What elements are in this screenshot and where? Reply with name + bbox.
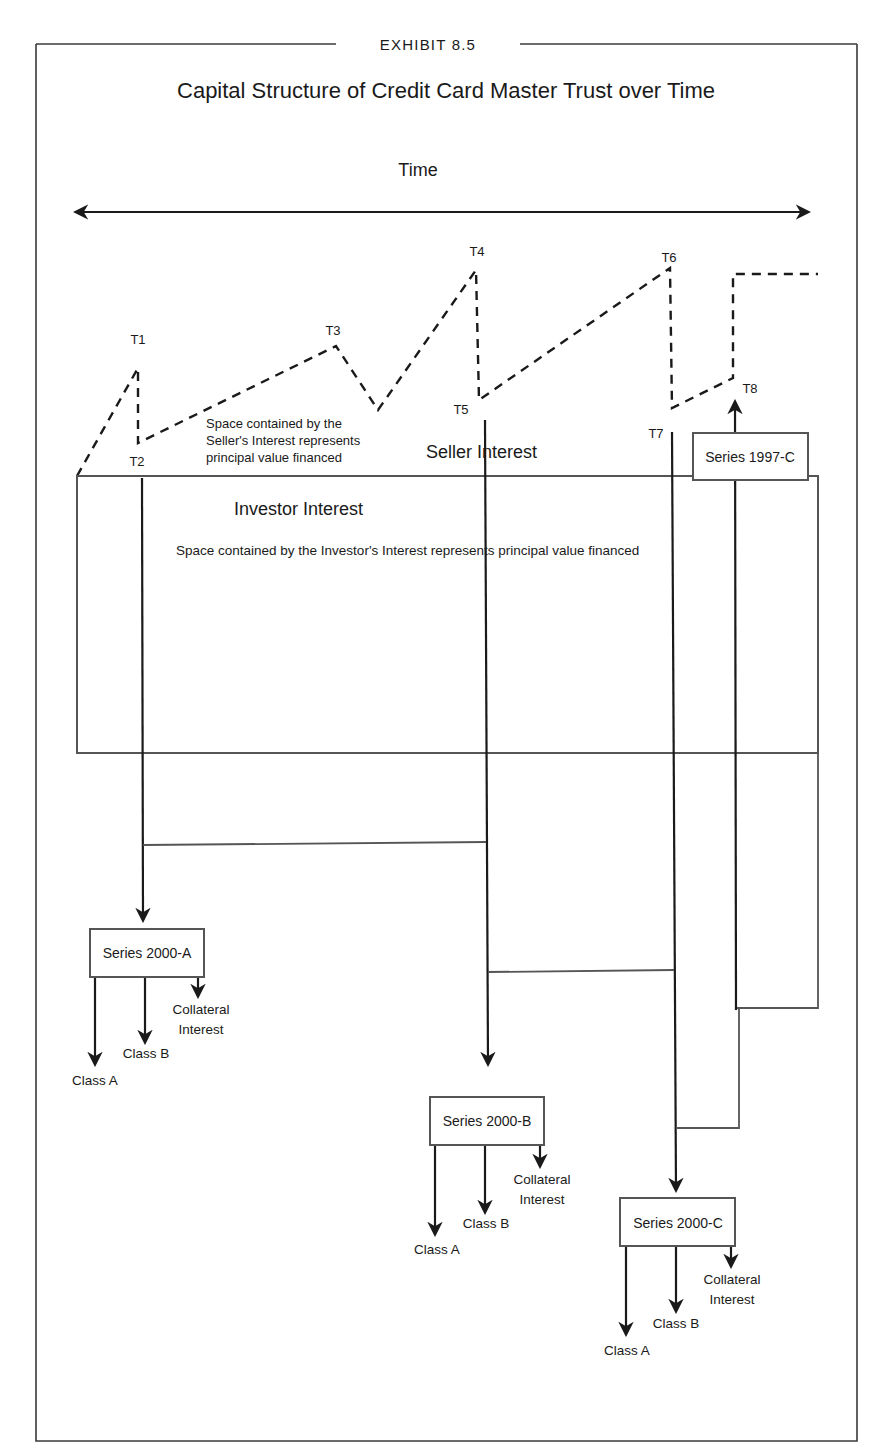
series-2000c-flow-line — [672, 432, 676, 1190]
time-label-t4: T4 — [469, 244, 484, 259]
collateral-interest-label-1: Collateral — [703, 1272, 760, 1287]
time-label-t2: T2 — [129, 454, 144, 469]
svg-text:principal value financed: principal value financed — [206, 450, 342, 465]
svg-text:Seller's Interest represents: Seller's Interest represents — [206, 433, 361, 448]
seller-interest-note: Space contained by the Seller's Interest… — [206, 416, 361, 465]
series-2000c-node: Series 2000-C Class A Class B Collateral… — [604, 1198, 760, 1358]
class-b-label: Class B — [123, 1046, 170, 1061]
class-a-label: Class A — [414, 1242, 460, 1257]
collateral-interest-label-2: Interest — [709, 1292, 754, 1307]
series-2000c-label: Series 2000-C — [633, 1215, 723, 1231]
svg-text:Space contained by the: Space contained by the — [206, 416, 342, 431]
collateral-interest-label-1: Collateral — [513, 1172, 570, 1187]
series-1997c-label: Series 1997-C — [705, 449, 795, 465]
investor-interest-title: Investor Interest — [234, 499, 363, 519]
exhibit-label: EXHIBIT 8.5 — [380, 36, 476, 53]
credit-card-master-trust-diagram: EXHIBIT 8.5 Capital Structure of Credit … — [0, 0, 875, 1454]
series-2000b-label: Series 2000-B — [443, 1113, 532, 1129]
seller-interest-title: Seller Interest — [426, 442, 537, 462]
investor-interest-note: Space contained by the Investor's Intere… — [176, 543, 639, 558]
collateral-interest-label-1: Collateral — [172, 1002, 229, 1017]
class-a-label: Class A — [72, 1073, 118, 1088]
time-axis-label: Time — [398, 160, 437, 180]
collateral-interest-label-2: Interest — [178, 1022, 223, 1037]
class-b-label: Class B — [653, 1316, 700, 1331]
time-label-t3: T3 — [325, 323, 340, 338]
class-b-label: Class B — [463, 1216, 510, 1231]
series-2000a-label: Series 2000-A — [103, 945, 192, 961]
time-label-t1: T1 — [130, 332, 145, 347]
series-1997c-flow-line — [735, 402, 736, 1010]
time-label-t7: T7 — [648, 426, 663, 441]
time-label-t5: T5 — [453, 402, 468, 417]
series-2000a-flow-line — [142, 478, 143, 920]
series-1997c-node: Series 1997-C — [693, 433, 808, 480]
investor-interest-connectors — [143, 476, 818, 1128]
investor-interest-box — [77, 476, 818, 753]
class-a-label: Class A — [604, 1343, 650, 1358]
collateral-interest-label-2: Interest — [519, 1192, 564, 1207]
series-2000a-node: Series 2000-A Class A Class B Collateral… — [72, 929, 229, 1088]
series-2000b-node: Series 2000-B Class A Class B Collateral… — [414, 1097, 570, 1257]
time-label-t6: T6 — [661, 250, 676, 265]
time-label-t8: T8 — [742, 381, 757, 396]
diagram-title: Capital Structure of Credit Card Master … — [177, 78, 715, 103]
series-2000b-flow-line — [485, 420, 488, 1064]
